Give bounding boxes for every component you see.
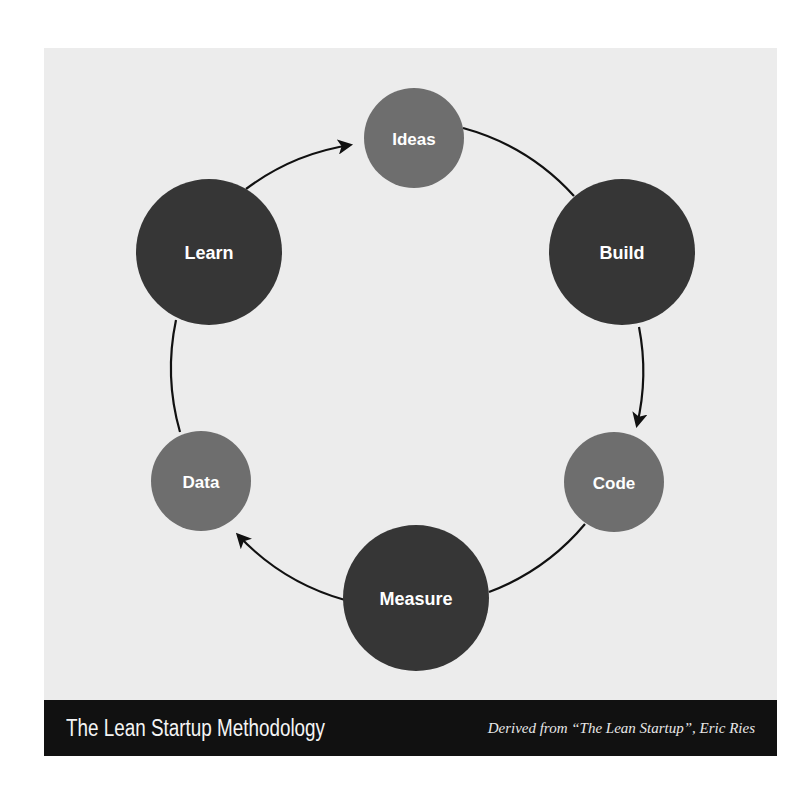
ideas-label: Ideas <box>392 130 435 149</box>
diagram-title: The Lean Startup Methodology <box>66 715 325 742</box>
learn-label: Learn <box>184 243 233 263</box>
edge-build-to-code <box>637 327 643 425</box>
code-label: Code <box>593 474 636 493</box>
edge-measure-to-data <box>238 535 345 600</box>
measure-label: Measure <box>379 589 452 609</box>
node-measure: Measure <box>343 525 489 671</box>
node-build: Build <box>549 179 695 325</box>
edge-data-to-learn <box>171 320 180 432</box>
data-label: Data <box>183 473 220 492</box>
lean-startup-cycle-diagram: Ideas Build Code Measure Data Learn <box>0 0 807 788</box>
node-learn: Learn <box>136 179 282 325</box>
edge-code-to-measure <box>489 524 585 592</box>
build-label: Build <box>600 243 645 263</box>
edge-learn-to-ideas <box>246 145 350 189</box>
node-data: Data <box>151 431 251 531</box>
source-credit: Derived from “The Lean Startup”, Eric Ri… <box>488 720 755 737</box>
node-ideas: Ideas <box>364 88 464 188</box>
title-banner: The Lean Startup Methodology Derived fro… <box>44 700 777 756</box>
node-code: Code <box>564 432 664 532</box>
edge-ideas-to-build <box>463 128 574 196</box>
